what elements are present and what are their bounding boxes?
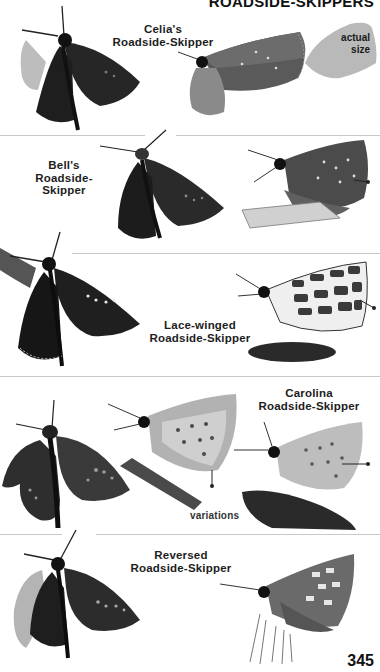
bells-ventral-butterfly-icon [240, 138, 380, 238]
carolina-ventral-variation-1-icon [108, 390, 240, 510]
species-name-line1: Carolina [254, 387, 364, 400]
species-name-carolina: Carolina Roadside-Skipper [254, 387, 364, 412]
lace-winged-dorsal-butterfly-icon [0, 228, 145, 368]
page-number: 345 [347, 652, 374, 670]
species-name-line2: Roadside-Skipper [254, 400, 364, 413]
carolina-ventral-variation-2-icon [232, 420, 380, 530]
section-title: ROADSIDE-SKIPPERS [209, 0, 374, 10]
actual-size-label: actual size [330, 32, 370, 56]
section-divider [0, 376, 380, 377]
lace-winged-ventral-butterfly-icon [232, 260, 380, 366]
reversed-ventral-butterfly-icon [220, 550, 360, 666]
celias-ventral-butterfly-icon [176, 28, 312, 120]
reversed-dorsal-butterfly-icon [6, 530, 146, 660]
celias-dorsal-butterfly-icon [8, 2, 148, 132]
